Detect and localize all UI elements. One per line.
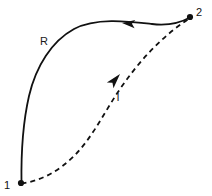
diagram-canvas: 1 2 R I <box>0 0 212 196</box>
reversible-path-label: R <box>40 35 48 47</box>
state-2-label: 2 <box>196 6 202 18</box>
state-2-point-marker <box>187 14 193 20</box>
thermodynamic-cycle-diagram: 1 2 R I <box>0 0 212 196</box>
irreversible-path-arrow-icon <box>107 71 123 88</box>
state-1-point-marker <box>18 180 24 186</box>
reversible-path-arrow-icon <box>122 19 136 29</box>
state-1-label: 1 <box>4 179 10 191</box>
irreversible-path-label: I <box>116 91 119 103</box>
